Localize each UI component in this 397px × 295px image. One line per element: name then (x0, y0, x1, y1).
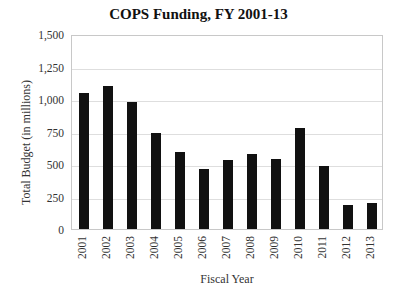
bar-2008 (247, 154, 257, 229)
bar-2005 (175, 152, 185, 229)
bar-2002 (103, 86, 113, 229)
x-tick-label: 2003 (124, 236, 136, 259)
bar-2013 (367, 203, 377, 229)
x-tick-label: 2001 (76, 236, 88, 259)
y-tick-label: 1,000 (38, 94, 64, 106)
bar-2010 (295, 128, 305, 229)
bar-2003 (127, 102, 137, 229)
x-tick-label: 2007 (220, 236, 232, 259)
x-tick-label: 2005 (172, 236, 184, 259)
x-tick-label: 2011 (316, 236, 328, 259)
bar-2001 (79, 93, 89, 229)
chart-title: COPS Funding, FY 2001-13 (0, 6, 397, 23)
plot-area (71, 35, 383, 230)
x-tick-label: 2008 (244, 236, 256, 259)
x-tick-label: 2006 (196, 236, 208, 259)
bar-2009 (271, 159, 281, 229)
bar-2004 (151, 133, 161, 229)
gridline (72, 69, 382, 70)
gridline (72, 101, 382, 102)
bar-2011 (319, 166, 329, 229)
x-tick-label: 2013 (364, 236, 376, 259)
x-tick-label: 2002 (100, 236, 112, 259)
bar-2007 (223, 160, 233, 229)
gridline (72, 134, 382, 135)
x-tick-label: 2004 (148, 236, 160, 259)
x-axis-label: Fiscal Year (71, 272, 383, 287)
x-tick-label: 2012 (340, 236, 352, 259)
y-tick-label: 1,250 (38, 62, 64, 74)
y-tick-label: 0 (58, 224, 64, 236)
y-tick-label: 1,500 (38, 29, 64, 41)
y-tick-label: 250 (47, 192, 64, 204)
bar-2006 (199, 169, 209, 229)
x-tick-label: 2010 (292, 236, 304, 259)
y-tick-label: 750 (47, 127, 64, 139)
y-axis-label: Total Budget (in millions) (19, 73, 34, 213)
x-tick-label: 2009 (268, 236, 280, 259)
bar-2012 (343, 205, 353, 229)
y-tick-label: 500 (47, 159, 64, 171)
